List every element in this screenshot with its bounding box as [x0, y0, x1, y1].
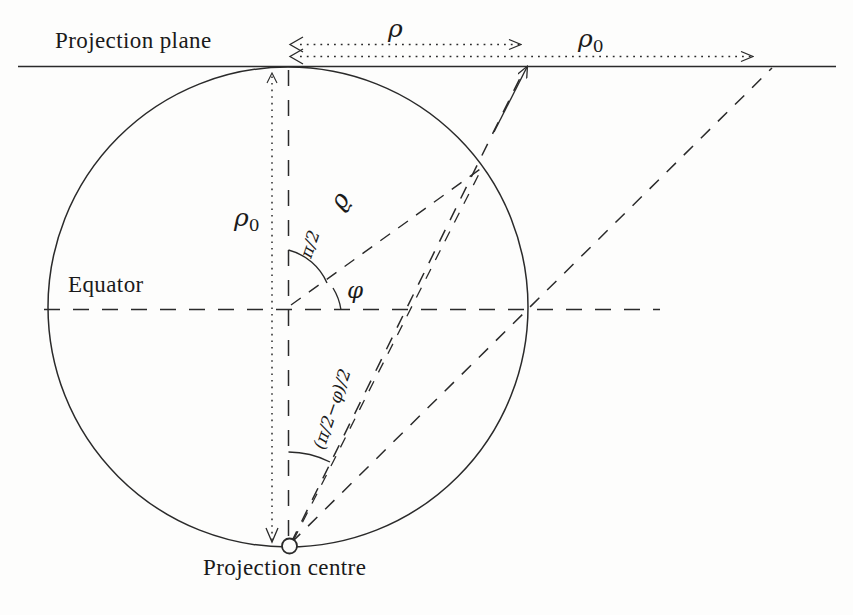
projection-ray-dashed: [291, 72, 523, 543]
angle-arc-half-difference: [289, 452, 331, 462]
figure-canvas: Projection plane Equator Projection cent…: [0, 0, 853, 615]
projection-centre-marker: [282, 539, 297, 554]
rho0-top-base: ρ: [578, 24, 593, 53]
angle-phi-label: φ: [347, 277, 363, 303]
rho0-measure-label: ρ0: [578, 24, 604, 56]
rho0-top-subscript: 0: [593, 36, 604, 56]
equator-label: Equator: [68, 272, 144, 298]
chord-centre-to-circle-point-dashed: [293, 170, 481, 541]
rho0-vertical-subscript: 0: [249, 215, 260, 235]
rho-measure-label: ρ: [388, 14, 403, 43]
projection-ray-arrow: [494, 67, 527, 132]
rho0-vertical-base: ρ: [234, 203, 249, 232]
projection-centre-label: Projection centre: [203, 555, 366, 581]
projection-plane-label: Projection plane: [55, 28, 212, 54]
angle-arc-phi: [333, 288, 341, 310]
equator-projection-ray-dashed: [291, 68, 772, 543]
rho0-vertical-measure-label: ρ0: [234, 203, 260, 235]
stereographic-projection-diagram: [0, 0, 853, 615]
